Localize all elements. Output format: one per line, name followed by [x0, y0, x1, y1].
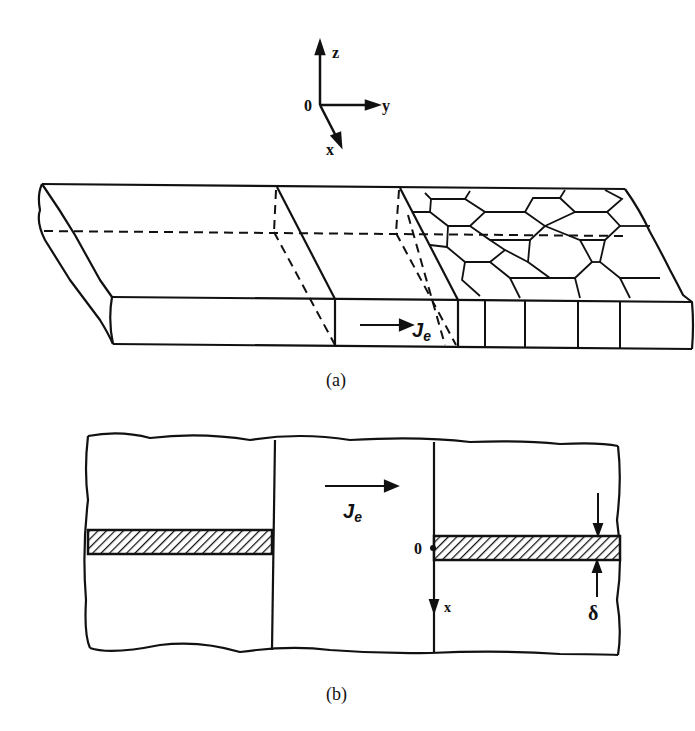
grain-boundaries-front [485, 300, 620, 348]
hatched-slit-right [434, 536, 620, 560]
origin-point [430, 545, 436, 551]
hatched-slit-left [88, 530, 272, 554]
figure-canvas: z y 0 x [0, 0, 695, 731]
coordinate-axes [316, 42, 378, 146]
x-axis-label: x [326, 141, 334, 158]
thickness-label: δ [588, 602, 598, 624]
current-arrow-a [360, 320, 412, 330]
x-axis-arrow-b [430, 600, 438, 612]
current-arrow-b [325, 481, 397, 491]
current-label-b: Je [343, 500, 362, 525]
y-axis-label: y [382, 97, 390, 115]
x-axis-label-b: x [444, 600, 451, 615]
caption-b: (b) [326, 684, 347, 705]
origin-label: 0 [304, 97, 312, 114]
z-axis-label: z [332, 44, 339, 61]
origin-label-b: 0 [414, 540, 422, 557]
current-label-a: Je [412, 319, 431, 344]
caption-a: (a) [326, 370, 346, 391]
